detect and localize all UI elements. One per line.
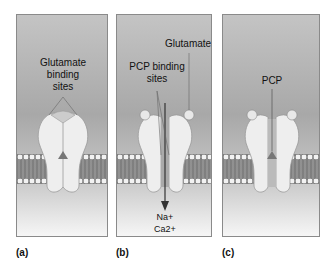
sodium-label: Na+	[145, 211, 185, 223]
panel-label-c: (c)	[222, 247, 234, 258]
label-line-3: sites	[27, 81, 99, 93]
pcp-label: PCP	[257, 75, 287, 87]
receptor-closed	[17, 15, 108, 237]
label-line-2: binding	[27, 69, 99, 81]
panel-a: Glutamate binding sites	[16, 14, 108, 237]
ion-label: Na+ Ca2+	[145, 211, 185, 235]
calcium-label: Ca2+	[145, 223, 185, 235]
glutamate-label: Glutamate	[165, 38, 211, 50]
panel-c: PCP	[222, 14, 320, 237]
label-line-1: Glutamate	[27, 57, 99, 69]
glutamate-binding-label: Glutamate binding sites	[27, 57, 99, 93]
label-line-2: sites	[119, 73, 195, 85]
pcp-binding-sites-label: PCP binding sites	[119, 61, 195, 85]
panel-label-a: (a)	[16, 247, 28, 258]
label-line-1: PCP binding	[119, 61, 195, 73]
panel-label-b: (b)	[116, 247, 129, 258]
panel-b: Glutamate PCP binding sites Na+ Ca2+	[116, 14, 212, 237]
receptor-blocked	[223, 15, 320, 237]
